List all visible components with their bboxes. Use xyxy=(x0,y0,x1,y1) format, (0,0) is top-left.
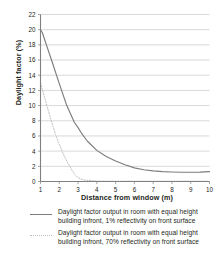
svg-text:22: 22 xyxy=(28,11,36,18)
svg-text:12: 12 xyxy=(28,87,36,94)
svg-text:2: 2 xyxy=(32,163,36,170)
legend-item-label: Daylight factor output in room with equa… xyxy=(58,229,218,246)
chart-legend: Daylight factor output in room with equa… xyxy=(0,208,224,250)
daylight-factor-chart: 0246810121416182022 12345678910 Daylight… xyxy=(0,0,224,253)
svg-text:0: 0 xyxy=(32,178,36,185)
svg-text:3: 3 xyxy=(76,186,80,193)
svg-text:20: 20 xyxy=(28,26,36,33)
chart-canvas: 0246810121416182022 12345678910 xyxy=(0,0,224,200)
y-tick-labels: 0246810121416182022 xyxy=(28,11,36,185)
solid-line-swatch-icon xyxy=(30,211,52,218)
svg-text:8: 8 xyxy=(32,117,36,124)
svg-text:2: 2 xyxy=(58,186,62,193)
svg-text:8: 8 xyxy=(170,186,174,193)
x-tick-labels: 12345678910 xyxy=(39,186,214,193)
svg-text:10: 10 xyxy=(28,102,36,109)
svg-text:7: 7 xyxy=(151,186,155,193)
svg-text:16: 16 xyxy=(28,56,36,63)
svg-text:10: 10 xyxy=(206,186,214,193)
axis-lines xyxy=(41,15,210,182)
x-axis-label: Distance from window (m) xyxy=(38,193,216,202)
svg-text:14: 14 xyxy=(28,72,36,79)
svg-text:4: 4 xyxy=(32,148,36,155)
legend-item: Daylight factor output in room with equa… xyxy=(0,208,224,225)
svg-text:4: 4 xyxy=(95,186,99,193)
dotted-line-swatch-icon xyxy=(30,232,52,239)
legend-item: Daylight factor output in room with equa… xyxy=(0,229,224,246)
svg-text:6: 6 xyxy=(133,186,137,193)
svg-text:5: 5 xyxy=(114,186,118,193)
svg-text:1: 1 xyxy=(39,186,43,193)
svg-text:9: 9 xyxy=(189,186,193,193)
svg-text:18: 18 xyxy=(28,41,36,48)
svg-text:6: 6 xyxy=(32,132,36,139)
y-axis-label: Daylight factor (%) xyxy=(14,17,23,129)
gridlines xyxy=(41,15,210,182)
legend-item-label: Daylight factor output in room with equa… xyxy=(58,208,218,225)
plot-area: 0246810121416182022 12345678910 Daylight… xyxy=(0,0,224,200)
